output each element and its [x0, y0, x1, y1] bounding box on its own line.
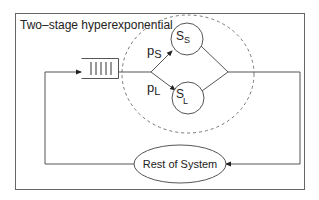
upper-join-line — [201, 46, 228, 72]
diagram-title: Two–stage hyperexponential — [20, 18, 173, 32]
rest-of-system-label: Rest of System — [143, 158, 218, 170]
queue-icon — [82, 59, 119, 79]
output-path — [226, 72, 300, 164]
lower-join-line — [202, 72, 228, 91]
hyperexponential-diagram: Two–stage hyperexponential Rest of Syste… — [0, 0, 319, 200]
feedback-path — [45, 72, 134, 164]
prob-large-label: pL — [147, 80, 160, 97]
prob-small-label: pS — [147, 43, 162, 60]
